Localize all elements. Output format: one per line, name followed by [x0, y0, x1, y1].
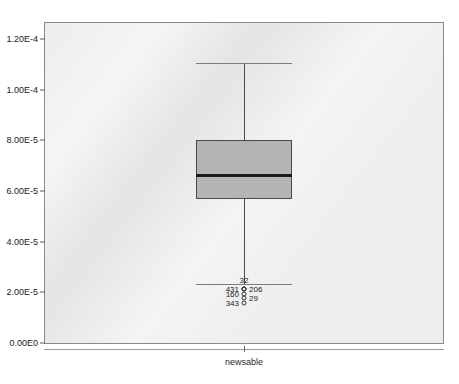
- y-axis-tick-label: 2.00E-5: [0, 287, 38, 297]
- y-axis-tick-label: 4.00E-5: [0, 237, 38, 247]
- boxplot-figure: 1.20E-41.00E-48.00E-56.00E-54.00E-52.00E…: [0, 0, 459, 384]
- y-axis-tick-label: 6.00E-5: [0, 186, 38, 196]
- y-axis-tick-mark: [40, 292, 45, 293]
- y-axis-tick-mark: [40, 39, 45, 40]
- y-axis-tick-mark: [40, 343, 45, 344]
- x-axis-tick-mark: [244, 346, 245, 352]
- y-axis-tick-label: 0.00E0: [0, 338, 38, 348]
- x-axis-category-label: newsable: [225, 357, 263, 367]
- plot-area: [44, 22, 444, 344]
- y-axis-tick-label: 8.00E-5: [0, 135, 38, 145]
- y-axis-tick-mark: [40, 191, 45, 192]
- y-axis-tick-label: 1.00E-4: [0, 85, 38, 95]
- y-axis-tick-label: 1.20E-4: [0, 34, 38, 44]
- y-axis-tick-mark: [40, 140, 45, 141]
- y-axis-tick-mark: [40, 241, 45, 242]
- y-axis-tick-mark: [40, 89, 45, 90]
